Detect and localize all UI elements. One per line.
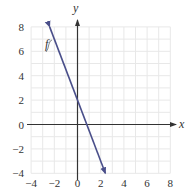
x-tick-label: −4	[25, 177, 37, 189]
grid	[31, 27, 170, 173]
function-graph: x y −4−202468 −4−202468 f	[0, 0, 188, 193]
y-tick-label: 0	[19, 119, 25, 131]
x-tick-label: 0	[75, 177, 81, 189]
x-tick-label: 8	[168, 177, 174, 189]
x-axis-label: x	[178, 117, 185, 131]
y-tick-label: 4	[19, 70, 25, 82]
y-tick-label: −4	[12, 167, 24, 179]
x-tick-label: 6	[144, 177, 150, 189]
y-axis-label: y	[72, 1, 79, 15]
x-tick-label: 2	[98, 177, 104, 189]
y-tick-labels: −4−202468	[12, 21, 24, 179]
x-tick-label: −2	[48, 177, 60, 189]
y-tick-label: −2	[12, 143, 24, 155]
y-tick-label: 2	[19, 94, 25, 106]
x-tick-label: 4	[121, 177, 127, 189]
y-tick-label: 8	[19, 21, 25, 33]
x-tick-labels: −4−202468	[25, 177, 173, 189]
y-tick-label: 6	[19, 45, 25, 57]
